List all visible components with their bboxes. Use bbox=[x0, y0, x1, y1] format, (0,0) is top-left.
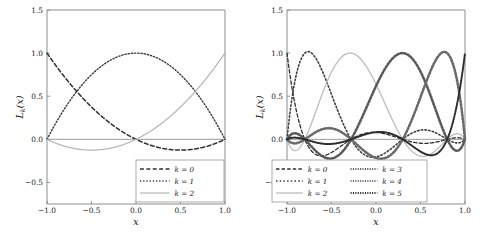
y-axis-ticks: −0.50.00.51.01.5 bbox=[25, 6, 50, 187]
y-tick-label: 1.0 bbox=[271, 49, 283, 58]
legend-label-3: k = 3 bbox=[382, 165, 402, 174]
y-tick-label: 0.0 bbox=[271, 135, 283, 144]
x-tick-label: 0.5 bbox=[415, 206, 427, 215]
curve-group bbox=[47, 53, 225, 150]
legend[interactable]: k = 0k = 1k = 2k = 3k = 4k = 5 bbox=[272, 160, 427, 202]
series-curve-3 bbox=[287, 53, 465, 158]
x-tick-label: 0.5 bbox=[175, 206, 187, 215]
x-tick-label: −1.0 bbox=[278, 206, 296, 215]
legend[interactable]: k = 0k = 1k = 2 bbox=[136, 160, 224, 202]
legend-label-2: k = 2 bbox=[175, 189, 195, 198]
legend-label-2: k = 2 bbox=[308, 189, 328, 198]
legend-label-0: k = 0 bbox=[308, 165, 328, 174]
y-tick-label: 1.5 bbox=[271, 6, 283, 15]
x-tick-label: 0.0 bbox=[130, 206, 142, 215]
y-tick-label: 1.0 bbox=[31, 49, 43, 58]
series-curve-5 bbox=[287, 53, 465, 155]
svg-text:Lk(x): Lk(x) bbox=[14, 95, 27, 119]
x-tick-label: 0.0 bbox=[370, 206, 382, 215]
x-axis-label: x bbox=[373, 216, 379, 227]
legend-label-0: k = 0 bbox=[175, 165, 195, 174]
y-tick-label: 0.5 bbox=[31, 92, 43, 101]
x-tick-label: −0.5 bbox=[323, 206, 341, 215]
y-axis-label: Lk(x) bbox=[14, 95, 27, 119]
x-tick-label: −0.5 bbox=[83, 206, 101, 215]
x-tick-label: 1.0 bbox=[459, 206, 471, 215]
curve-group bbox=[287, 52, 465, 159]
figure-root: −1.0−0.50.00.51.0−0.50.00.51.01.5xLk(x)k… bbox=[0, 0, 480, 240]
y-tick-label: 1.5 bbox=[31, 6, 43, 15]
left-plot-svg: −1.0−0.50.00.51.0−0.50.00.51.01.5xLk(x)k… bbox=[0, 0, 240, 240]
y-tick-label: 0.5 bbox=[271, 92, 283, 101]
x-axis-ticks: −1.0−0.50.00.51.0 bbox=[278, 201, 471, 215]
legend-label-1: k = 1 bbox=[175, 177, 195, 186]
x-tick-label: 1.0 bbox=[219, 206, 231, 215]
svg-text:Lk(x): Lk(x) bbox=[254, 95, 267, 119]
series-curve-2 bbox=[47, 53, 225, 150]
y-axis-label: Lk(x) bbox=[254, 95, 267, 119]
x-axis-label: x bbox=[133, 216, 139, 227]
series-curve-1 bbox=[47, 53, 225, 139]
y-tick-label: −0.5 bbox=[25, 178, 43, 187]
x-tick-label: −1.0 bbox=[38, 206, 56, 215]
legend-label-1: k = 1 bbox=[308, 177, 328, 186]
chart-panel-left: −1.0−0.50.00.51.0−0.50.00.51.01.5xLk(x)k… bbox=[0, 0, 240, 240]
y-tick-label: 0.0 bbox=[31, 135, 43, 144]
series-curve-0 bbox=[287, 53, 465, 156]
chart-panel-right: −1.0−0.50.00.51.0−0.50.00.51.01.5xLk(x)k… bbox=[240, 0, 480, 240]
legend-label-4: k = 4 bbox=[382, 177, 402, 186]
series-curve-0 bbox=[47, 53, 225, 150]
x-axis-ticks: −1.0−0.50.00.51.0 bbox=[38, 201, 231, 215]
legend-label-5: k = 5 bbox=[382, 189, 402, 198]
right-plot-svg: −1.0−0.50.00.51.0−0.50.00.51.01.5xLk(x)k… bbox=[240, 0, 480, 240]
